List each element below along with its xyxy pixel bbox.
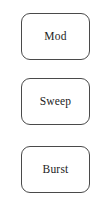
- mode-button-mod[interactable]: Mod: [21, 13, 90, 60]
- mode-button-mod-label: Mod: [44, 31, 66, 43]
- mode-button-panel: Mod Sweep Burst: [0, 0, 104, 204]
- mode-button-sweep-label: Sweep: [40, 96, 72, 108]
- mode-button-burst-label: Burst: [43, 164, 69, 176]
- mode-button-sweep[interactable]: Sweep: [21, 78, 90, 125]
- mode-button-burst[interactable]: Burst: [21, 146, 90, 193]
